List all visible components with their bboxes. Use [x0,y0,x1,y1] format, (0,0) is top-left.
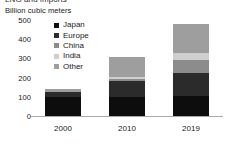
y-tick-400: 400 [3,35,31,44]
x-axis-tick-labels: 200020102019 [31,124,223,138]
y-tick-100: 100 [3,92,31,101]
y-tick-200: 200 [3,73,31,82]
clipped-figure-title: LNG and imports [5,0,67,4]
plot-area: 0100200300400500 [0,16,225,122]
y-tick-500: 500 [3,16,31,25]
bar-segment-2010-europe[interactable] [109,81,145,97]
chart-legend: JapanEuropeChinaIndiaOther [54,20,89,72]
x-tick-2000: 2000 [33,124,93,133]
bar-segment-2019-china[interactable] [173,60,209,73]
legend-item-label: Other [63,63,83,71]
legend-swatch-icon [54,43,59,48]
legend-item-india[interactable]: India [54,51,89,61]
y-tick-0: 0 [3,112,31,121]
x-tick-2019: 2019 [161,124,221,133]
bar-segment-2019-other[interactable] [173,24,209,53]
legend-item-europe[interactable]: Europe [54,30,89,40]
legend-swatch-icon [54,23,59,28]
bar-segment-2010-japan[interactable] [109,97,145,116]
legend-item-label: India [63,52,80,60]
y-axis-title: Billion cubic meters [5,6,71,15]
stacked-bar-2019[interactable] [173,24,209,116]
legend-item-label: China [63,42,84,50]
bar-segment-2019-japan[interactable] [173,96,209,116]
bar-segment-2000-japan[interactable] [45,97,81,116]
bar-segment-2019-india[interactable] [173,53,209,60]
chart-root: LNG and imports Billion cubic meters 010… [0,0,225,144]
stacked-bar-2010[interactable] [109,57,145,116]
legend-swatch-icon [54,64,59,69]
x-tick-2010: 2010 [97,124,157,133]
bar-segment-2010-other[interactable] [109,57,145,77]
legend-swatch-icon [54,54,59,59]
legend-item-china[interactable]: China [54,41,89,51]
legend-item-label: Europe [63,32,89,40]
legend-swatch-icon [54,33,59,38]
y-axis-tick-labels: 0100200300400500 [0,16,31,122]
legend-item-label: Japan [63,21,85,29]
legend-item-other[interactable]: Other [54,62,89,72]
legend-item-japan[interactable]: Japan [54,20,89,30]
y-tick-300: 300 [3,54,31,63]
bar-segment-2019-europe[interactable] [173,73,209,96]
stacked-bar-2000[interactable] [45,89,81,116]
